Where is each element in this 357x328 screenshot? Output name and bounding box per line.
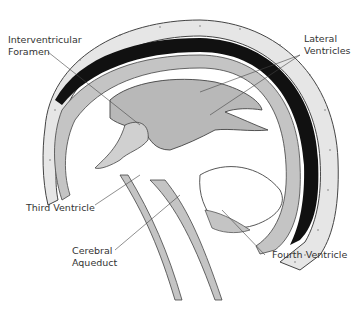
label-line: Foramen [8, 46, 50, 57]
label-line: Ventricles [304, 45, 351, 56]
label-interventricular-foramen: Interventricular Foramen [8, 34, 82, 58]
label-lateral-ventricles: Lateral Ventricles [304, 33, 351, 57]
label-third-ventricle: Third Ventricle [26, 202, 95, 214]
label-fourth-ventricle: Fourth Ventricle [272, 249, 347, 261]
label-line: Lateral [304, 33, 337, 44]
label-line: Fourth Ventricle [272, 249, 347, 260]
label-line: Interventricular [8, 34, 82, 45]
label-cerebral-aqueduct: Cerebral Aqueduct [72, 245, 117, 269]
label-line: Aqueduct [72, 257, 117, 268]
third-ventricle-shape [95, 122, 148, 168]
brain-ventricle-diagram: Interventricular Foramen Lateral Ventric… [0, 0, 357, 328]
label-line: Third Ventricle [26, 202, 95, 213]
label-line: Cerebral [72, 245, 112, 256]
